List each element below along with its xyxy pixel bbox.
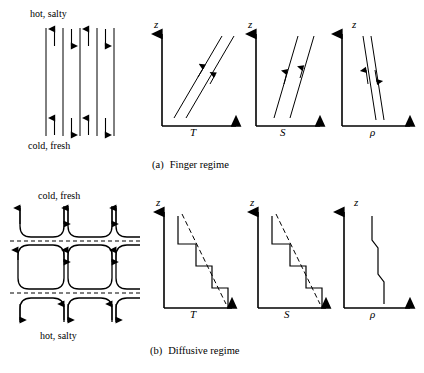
finger-bottom-label: cold, fresh (28, 140, 70, 151)
cell-row-mid (18, 245, 140, 289)
chart-finger-rho: ρ z (330, 22, 416, 142)
y-axis-label: z (154, 18, 158, 30)
chart-diffusive-T: T z (152, 200, 238, 324)
x-axis-label: S (284, 308, 290, 320)
x-axis-label: ρ (370, 308, 375, 320)
finger-columns (46, 28, 114, 136)
y-axis-label: z (354, 196, 358, 208)
finger-top-label: hot, salty (30, 8, 67, 19)
y-axis-label: z (250, 196, 254, 208)
diffusive-bottom-label: hot, salty (40, 330, 77, 341)
chart-diffusive-rho: ρ z (330, 200, 416, 324)
x-axis-label: T (190, 308, 196, 320)
caption-letter: (b) (150, 345, 162, 356)
mean-gradient-line (182, 214, 226, 304)
diffusive-top-label: cold, fresh (38, 190, 80, 201)
data-lines (174, 36, 234, 118)
mean-gradient-line (276, 214, 320, 304)
finger-cell-schematic (36, 24, 126, 140)
cell-row-top (20, 206, 140, 237)
caption-text: Finger regime (170, 159, 229, 170)
y-axis-label: z (156, 196, 160, 208)
chart-finger-T: T z (152, 22, 240, 142)
x-axis-label: T (190, 126, 196, 138)
cell-row-bottom (20, 298, 140, 322)
caption-text: Diffusive regime (168, 345, 239, 356)
chart-finger-S: S z (246, 22, 324, 142)
density-profile (372, 216, 384, 304)
interface-lines (10, 241, 142, 293)
diffusive-cell-schematic (8, 204, 144, 326)
y-axis-label: z (352, 18, 356, 30)
caption-finger: (a)Finger regime (152, 159, 229, 170)
data-lines (274, 36, 314, 118)
chart-diffusive-S: S z (246, 200, 332, 324)
y-axis-label: z (248, 18, 252, 30)
caption-letter: (a) (152, 159, 164, 170)
caption-diffusive: (b)Diffusive regime (150, 345, 240, 356)
x-axis-label: ρ (370, 126, 375, 138)
cell-flow-arrows (18, 208, 116, 320)
data-lines (363, 36, 384, 120)
x-axis-label: S (280, 126, 286, 138)
